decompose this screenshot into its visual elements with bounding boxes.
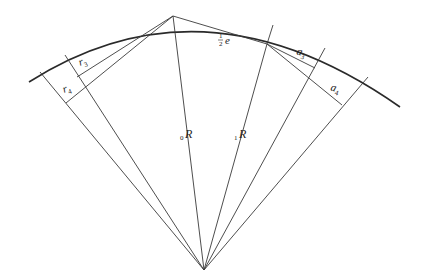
svg-text:R: R <box>238 127 247 141</box>
label-half-e: 1 2 e <box>218 32 230 48</box>
svg-text:R: R <box>184 127 193 141</box>
radius-0R-line <box>173 16 204 270</box>
label-r4: r4 <box>61 81 74 98</box>
label-r3: r3 <box>77 54 90 71</box>
svg-text:2: 2 <box>219 40 223 48</box>
svg-text:1: 1 <box>219 32 223 40</box>
label-0R: 0 R <box>180 127 193 142</box>
svg-text:1: 1 <box>234 134 238 142</box>
svg-text:0: 0 <box>180 134 184 142</box>
radial-line-outer-left <box>40 72 204 270</box>
svg-text:e: e <box>225 34 230 46</box>
outer-arc <box>29 32 400 107</box>
label-1R: 1 R <box>234 127 247 142</box>
r3-line <box>77 16 173 77</box>
radial-line-inner-right <box>204 48 325 270</box>
radius-1R-extension <box>267 25 273 44</box>
diagram-canvas: r3 r4 a3 a4 1 2 e 0 R 1 R <box>0 0 424 276</box>
radial-line-outer-right <box>204 77 368 270</box>
sector-diagram: r3 r4 a3 a4 1 2 e 0 R 1 R <box>0 0 424 276</box>
radius-1R-line <box>204 44 267 270</box>
